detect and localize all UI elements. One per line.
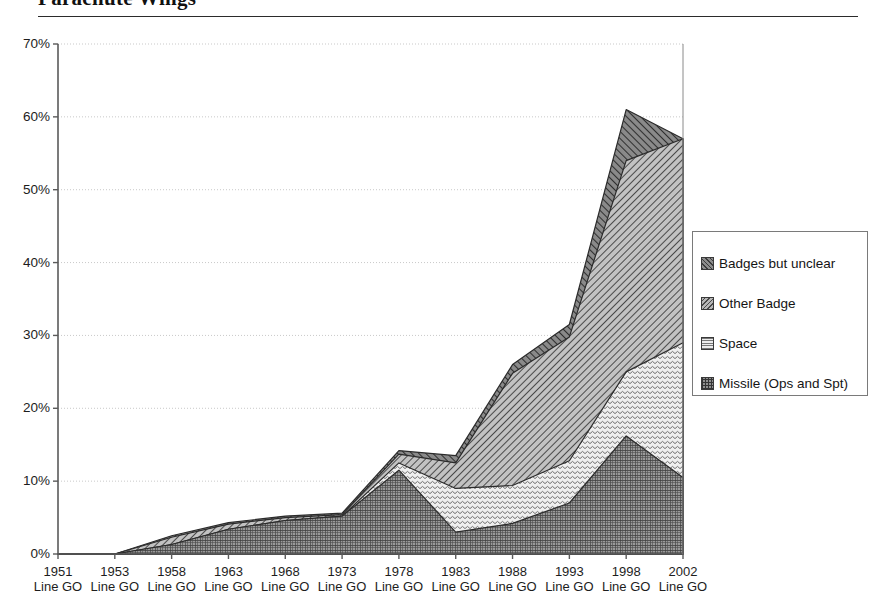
legend-item-label: Missile (Ops and Spt) (719, 376, 848, 391)
legend-item[interactable]: Other Badge (701, 286, 867, 320)
legend-swatch-icon (701, 377, 714, 390)
x-tick-sublabel: Line GO (646, 579, 720, 594)
y-tick-label: 30% (4, 328, 50, 342)
y-tick-label: 40% (4, 256, 50, 270)
legend-item[interactable]: Badges but unclear (701, 246, 867, 280)
stacked-area-chart: 0%10%20%30%40%50%60%70% 1951Line GO1953L… (0, 0, 885, 615)
legend-swatch-icon (701, 337, 714, 350)
y-tick-label: 70% (4, 37, 50, 51)
x-tick-year: 2002 (646, 564, 720, 579)
legend-item-label: Badges but unclear (719, 256, 835, 271)
legend-item[interactable]: Space (701, 326, 867, 360)
legend-swatch-icon (701, 257, 714, 270)
y-tick-label: 10% (4, 474, 50, 488)
x-tick-label: 2002Line GO (646, 564, 720, 594)
y-tick-label: 60% (4, 110, 50, 124)
legend-item-label: Space (719, 336, 757, 351)
y-tick-label: 20% (4, 401, 50, 415)
legend-swatch-icon (701, 297, 714, 310)
y-tick-label: 50% (4, 183, 50, 197)
legend-item[interactable]: Missile (Ops and Spt) (701, 366, 867, 400)
chart-legend: Badges but unclearOther BadgeSpaceMissil… (692, 231, 868, 396)
legend-item-label: Other Badge (719, 296, 796, 311)
y-tick-label: 0% (4, 547, 50, 561)
